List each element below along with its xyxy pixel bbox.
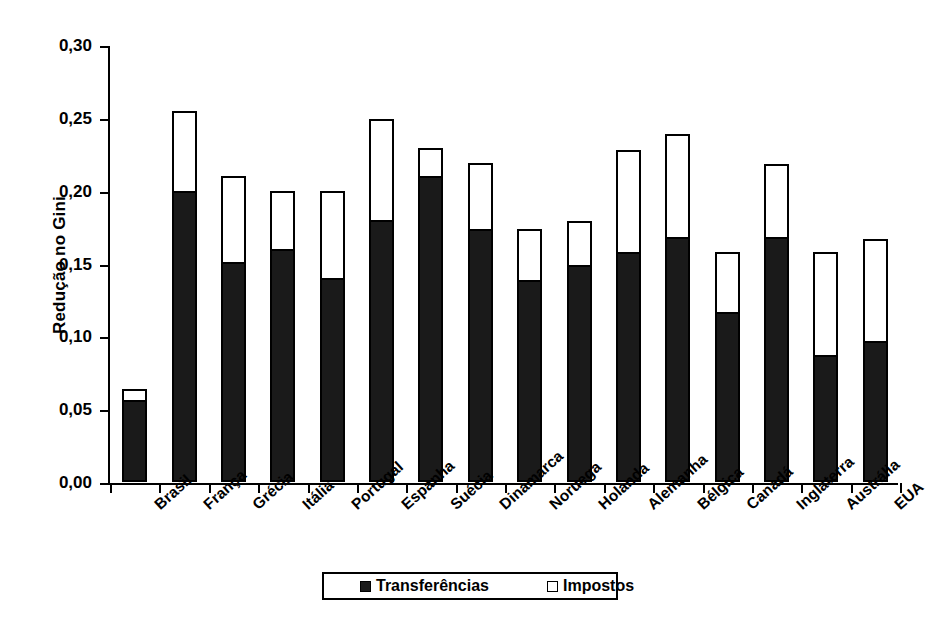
plot-area: 0,000,050,100,150,200,250,30 (108, 46, 898, 484)
x-axis-labels: BrasilFrançaGréciaItáliaPortugalEspanhaS… (108, 500, 898, 580)
bar-segment-transferencias (567, 265, 592, 482)
x-axis-label-austrlia: Austrália (842, 500, 854, 513)
bar-segment-transferencias (616, 252, 641, 482)
x-axis-label-inglaterra: Inglaterra (793, 500, 805, 513)
y-axis-tick: 0,20 (100, 192, 109, 194)
bar-segment-transferencias (221, 262, 246, 482)
x-axis-label-espanha: Espanha (398, 500, 410, 513)
y-axis-tick: 0,15 (100, 265, 109, 267)
bar-alemanha (616, 150, 641, 482)
bar-inglaterra (764, 164, 789, 482)
legend-label-transferencias: Transferências (376, 577, 489, 595)
chart-legend: Transferências Impostos (322, 572, 618, 600)
x-axis-label-eua: EUA (891, 500, 903, 513)
x-axis-label-frana: França (200, 500, 212, 513)
bar-austrlia (813, 252, 838, 482)
y-axis-tick-label: 0,25 (59, 109, 92, 129)
chart-figure: Redução no Gini 0,000,050,100,150,200,25… (0, 0, 941, 630)
bar-segment-transferencias (122, 400, 147, 482)
bar-itlia (270, 191, 295, 482)
bar-dinamarca (468, 163, 493, 482)
y-axis-tick: 0,10 (100, 337, 109, 339)
y-axis-tick-label: 0,20 (59, 182, 92, 202)
bar-canad (715, 252, 740, 482)
bar-segment-transferencias (517, 280, 542, 482)
x-axis-label-grcia: Grécia (249, 500, 261, 513)
bar-segment-transferencias (418, 176, 443, 482)
bar-noruega (517, 229, 542, 482)
x-axis-label-portugal: Portugal (348, 500, 360, 513)
y-axis-tick-label: 0,15 (59, 255, 92, 275)
bar-blgica (665, 134, 690, 482)
bar-segment-transferencias (715, 312, 740, 482)
x-axis-label-dinamarca: Dinamarca (496, 500, 508, 513)
bar-segment-transferencias (665, 237, 690, 482)
bar-segment-transferencias (369, 220, 394, 482)
bar-frana (172, 111, 197, 482)
bar-segment-transferencias (764, 237, 789, 482)
x-axis-label-itlia: Itália (299, 500, 311, 513)
y-axis-tick-label: 0,05 (59, 400, 92, 420)
legend-item-transferencias: Transferências (360, 577, 489, 595)
y-axis-tick: 0,30 (100, 46, 109, 48)
x-axis-label-noruega: Noruega (546, 500, 558, 513)
bar-grcia (221, 176, 246, 482)
x-axis-tick (110, 483, 112, 493)
bar-segment-transferencias (270, 249, 295, 482)
bar-segment-transferencias (172, 191, 197, 482)
bar-segment-transferencias (468, 229, 493, 482)
bar-sucia (418, 148, 443, 482)
bar-segment-transferencias (320, 278, 345, 482)
y-axis-tick: 0,05 (100, 410, 109, 412)
x-axis-label-brasil: Brasil (151, 500, 163, 513)
bar-espanha (369, 119, 394, 482)
legend-item-impostos: Impostos (547, 577, 634, 595)
x-axis-label-canad: Canadá (743, 500, 755, 513)
legend-swatch-filled-icon (360, 581, 371, 592)
bar-holanda (567, 221, 592, 482)
y-axis-tick-label: 0,10 (59, 327, 92, 347)
legend-swatch-hollow-icon (547, 581, 558, 592)
y-axis-tick: 0,00 (100, 483, 109, 485)
y-axis-tick-label: 0,30 (59, 36, 92, 56)
x-axis-label-holanda: Holanda (595, 500, 607, 513)
bar-portugal (320, 191, 345, 482)
y-axis-tick: 0,25 (100, 119, 109, 121)
y-axis-tick-label: 0,00 (59, 473, 92, 493)
legend-label-impostos: Impostos (563, 577, 634, 595)
bar-brasil (122, 389, 147, 482)
x-axis-label-blgica: Bélgica (694, 500, 706, 513)
x-axis-label-alemanha: Alemanha (644, 500, 656, 513)
bar-eua (863, 239, 888, 482)
x-axis-label-sucia: Suécia (447, 500, 459, 513)
